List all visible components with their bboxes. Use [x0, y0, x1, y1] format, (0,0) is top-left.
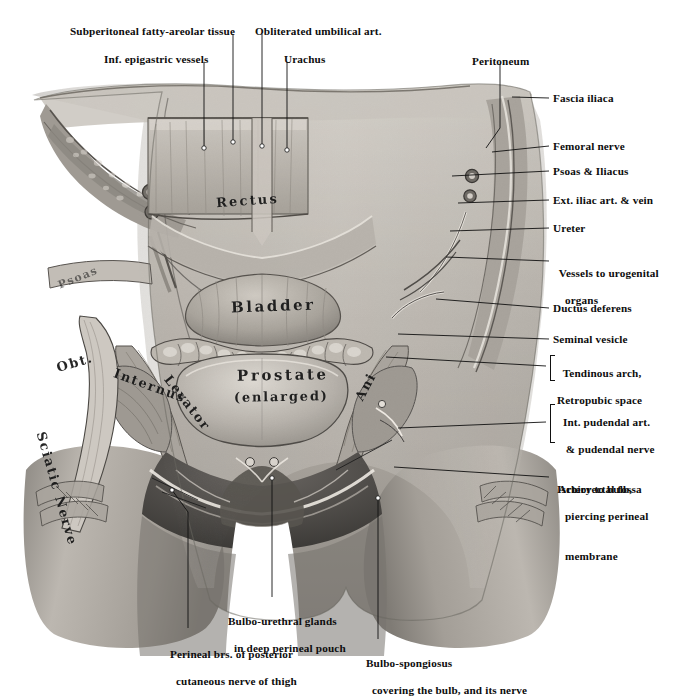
label-line: Bulbo-spongiosus — [366, 657, 452, 669]
figure-label-enlarged: (enlarged) — [234, 388, 329, 405]
label-line: piercing perineal — [553, 510, 648, 523]
figure-label-bladder: Bladder — [231, 296, 316, 317]
label-subperitoneal-fatty-areolar-tissue: Subperitoneal fatty-areolar tissue — [70, 25, 235, 38]
label-line: Perineal brs. of posterior — [170, 648, 293, 660]
figure-label-prostate: Prostate — [237, 365, 329, 385]
label-peritoneum: Peritoneum — [472, 55, 529, 68]
label-bulbo-spongiosus: Bulbo-spongiosus covering the bulb, and … — [360, 644, 527, 700]
label-line: & pudendal nerve — [557, 443, 655, 456]
bracket-tendinous-arch — [550, 355, 555, 381]
label-artery-to-bulb: Artery to bulb, piercing perineal membra… — [553, 470, 648, 577]
label-line: Int. pudendal art. — [563, 416, 650, 428]
label-psoas-and-iliacus: Psoas & Iliacus — [553, 165, 629, 178]
label-fascia-iliaca: Fascia iliaca — [553, 92, 614, 105]
label-line: covering the bulb, and its nerve — [360, 684, 527, 697]
label-ext-iliac-art-and-vein: Ext. iliac art. & vein — [553, 194, 653, 207]
label-line: Tendinous arch, — [563, 367, 642, 379]
bracket-pudendal-group — [550, 404, 555, 443]
label-seminal-vesicle: Seminal vesicle — [553, 333, 628, 346]
label-ductus-deferens: Ductus deferens — [553, 302, 632, 315]
label-femoral-nerve: Femoral nerve — [553, 140, 625, 153]
label-line: cutaneous nerve of thigh — [164, 675, 297, 688]
label-obliterated-umbilical-art: Obliterated umbilical art. — [255, 25, 382, 38]
label-line: Artery to bulb, — [558, 483, 632, 495]
label-ureter: Ureter — [553, 222, 585, 235]
label-inf-epigastric-vessels: Inf. epigastric vessels — [104, 53, 208, 66]
label-line: Vessels to urogenital — [559, 267, 659, 279]
label-line: Bulbo-urethral glands — [228, 615, 337, 627]
label-urachus: Urachus — [284, 53, 325, 66]
label-perineal-branches-posterior-cutaneous-nerve: Perineal brs. of posterior cutaneous ner… — [164, 635, 297, 700]
label-line: membrane — [553, 550, 648, 563]
